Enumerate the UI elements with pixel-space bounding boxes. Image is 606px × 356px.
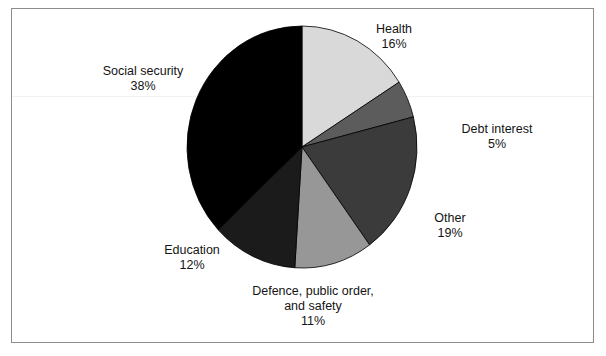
- pie-slice-group: [187, 26, 417, 268]
- pie-label-defence-name-line2: and safety: [252, 299, 374, 314]
- pie-label-defence-value: 11%: [252, 314, 374, 329]
- pie-label-health: Health 16%: [376, 22, 412, 52]
- pie-label-other-name: Other: [434, 211, 465, 226]
- pie-label-other: Other 19%: [434, 211, 465, 241]
- pie-label-health-value: 16%: [376, 37, 412, 52]
- pie-label-defence-name-line1: Defence, public order,: [252, 284, 374, 299]
- pie-label-debt-interest-name: Debt interest: [462, 122, 533, 137]
- pie-label-education-name: Education: [164, 243, 220, 258]
- pie-label-social-security-value: 38%: [103, 79, 184, 94]
- pie-label-education: Education 12%: [164, 243, 220, 273]
- pie-chart-figure: Health 16% Debt interest 5% Other 19% De…: [0, 0, 606, 356]
- pie-label-other-value: 19%: [434, 226, 465, 241]
- pie-label-defence: Defence, public order, and safety 11%: [252, 284, 374, 329]
- pie-label-education-value: 12%: [164, 258, 220, 273]
- pie-label-social-security: Social security 38%: [103, 64, 184, 94]
- pie-label-social-security-name: Social security: [103, 64, 184, 79]
- pie-label-health-name: Health: [376, 22, 412, 37]
- pie-label-debt-interest-value: 5%: [462, 137, 533, 152]
- pie-label-debt-interest: Debt interest 5%: [462, 122, 533, 152]
